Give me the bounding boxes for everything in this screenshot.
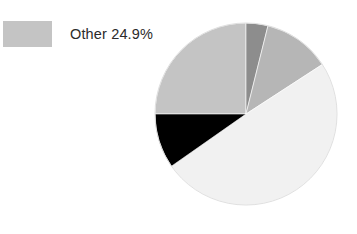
pie-slice [155,23,246,114]
pie-slice-group [155,23,337,205]
legend-swatch-other [3,21,52,47]
legend-label-other: Other 24.9% [70,26,153,42]
pie-chart [154,21,340,209]
pie-svg [154,21,340,209]
chart-legend: Other 24.9% [3,21,153,47]
pie-chart-figure: Other 24.9% [0,0,357,234]
